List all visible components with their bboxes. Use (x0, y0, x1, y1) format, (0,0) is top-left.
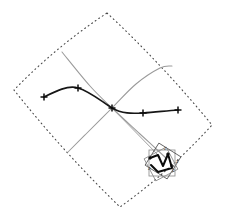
inset-label: Z (172, 168, 175, 173)
figure-canvas: Z Z Z Z (0, 0, 226, 221)
inset-label: Z (176, 159, 179, 164)
figure-root: Z Z Z Z (0, 0, 226, 221)
inset-label: Z (148, 166, 151, 171)
inset-label: Z (164, 146, 167, 151)
control-point-marker (140, 110, 147, 117)
inset-zigzag-spline (150, 154, 172, 172)
domain-boundary-dotted-path (14, 13, 212, 207)
detail-cluster-inset: Z Z Z Z (144, 143, 181, 181)
gray-curves-group (62, 52, 172, 158)
control-point-marker (41, 94, 48, 101)
domain-boundary-group (14, 13, 212, 207)
control-point-marker (175, 107, 182, 114)
control-point-marker (75, 85, 82, 92)
